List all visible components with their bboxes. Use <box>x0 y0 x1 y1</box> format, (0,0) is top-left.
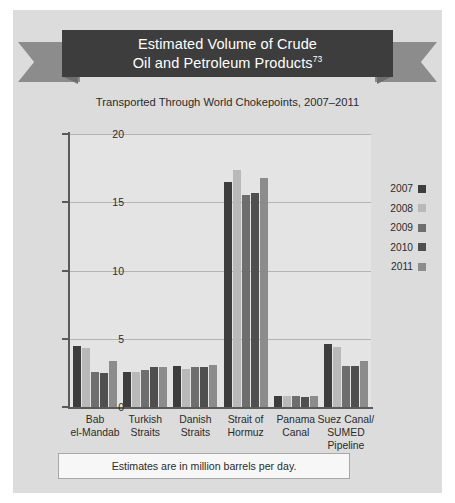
bar <box>100 373 108 407</box>
y-tick-mark-5 <box>62 338 68 340</box>
units-note: Estimates are in million barrels per day… <box>58 453 350 479</box>
bar <box>224 182 232 407</box>
legend-item-2010: 2010 <box>378 238 426 258</box>
legend-swatch <box>418 224 426 232</box>
bar-chart: 05101520 Babel-MandabTurkishStraitsDanis… <box>30 123 425 423</box>
category-label-line: Pipeline <box>327 440 364 451</box>
chart-subtitle: Transported Through World Chokepoints, 2… <box>13 96 442 108</box>
bar-group <box>224 134 268 407</box>
legend-swatch <box>418 185 426 193</box>
bar <box>251 193 259 407</box>
chart-title: Estimated Volume of Crude Oil and Petrol… <box>133 35 323 73</box>
bar <box>310 396 318 407</box>
y-axis-line <box>68 132 70 409</box>
legend-item-2009: 2009 <box>378 218 426 238</box>
bar-group <box>173 134 217 407</box>
bar <box>360 361 368 407</box>
bar <box>209 365 217 407</box>
bar <box>274 396 282 407</box>
legend-label: 2011 <box>391 261 413 272</box>
legend-item-2011: 2011 <box>378 257 426 277</box>
bar <box>200 367 208 407</box>
y-tick-mark-10 <box>62 270 68 272</box>
category-label: Suez Canal/SUMEDPipeline <box>300 413 392 452</box>
bar-group <box>274 134 318 407</box>
title-ribbon: Estimated Volume of Crude Oil and Petrol… <box>13 28 442 90</box>
bar <box>260 178 268 407</box>
bar <box>123 372 131 407</box>
legend-label: 2009 <box>390 222 413 233</box>
y-tick-mark-20 <box>62 133 68 135</box>
legend-item-2007: 2007 <box>378 179 426 199</box>
bar <box>73 346 81 407</box>
category-label-line: Suez Canal/ <box>318 414 375 425</box>
bar <box>82 348 90 407</box>
bar <box>292 396 300 407</box>
bar <box>301 397 309 407</box>
legend-swatch <box>418 263 426 271</box>
legend-label: 2007 <box>390 183 413 194</box>
bar <box>283 396 291 407</box>
bar <box>150 367 158 407</box>
chart-title-line-1: Estimated Volume of Crude <box>138 36 317 52</box>
bar <box>351 366 359 407</box>
bar <box>191 367 199 407</box>
bar-group <box>123 134 167 407</box>
bar <box>109 361 117 407</box>
bar <box>233 170 241 408</box>
legend-swatch <box>418 204 426 212</box>
legend-label: 2008 <box>390 203 413 214</box>
legend-label: 2010 <box>390 242 413 253</box>
bar <box>132 372 140 407</box>
y-tick-mark-15 <box>62 201 68 203</box>
category-label-line: SUMED <box>327 427 365 438</box>
bar <box>159 367 167 407</box>
bar-group <box>73 134 117 407</box>
bar <box>182 369 190 407</box>
bar <box>342 366 350 407</box>
legend-swatch <box>418 243 426 251</box>
bar <box>242 195 250 407</box>
chart-title-line-2: Oil and Petroleum Products <box>133 55 313 71</box>
title-footnote-marker: 73 <box>313 54 323 64</box>
y-tick-mark-0 <box>62 406 68 408</box>
bar <box>173 366 181 407</box>
legend-item-2008: 2008 <box>378 199 426 219</box>
bar <box>324 344 332 407</box>
figure-panel: Estimated Volume of Crude Oil and Petrol… <box>13 10 442 493</box>
chart-legend: 20072008200920102011 <box>378 179 426 277</box>
bar-group <box>324 134 368 407</box>
bar <box>141 370 149 407</box>
bar <box>91 372 99 407</box>
bar <box>333 347 341 407</box>
ribbon-band: Estimated Volume of Crude Oil and Petrol… <box>62 30 393 77</box>
